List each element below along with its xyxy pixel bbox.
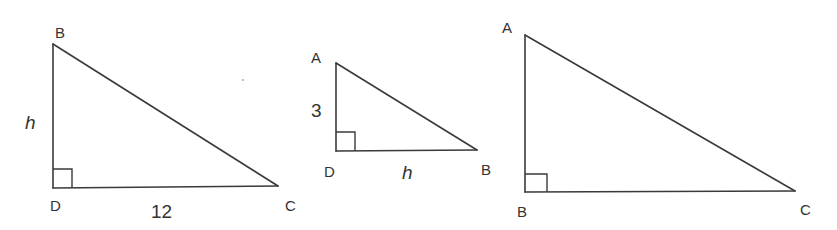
side-label-h: h	[402, 162, 413, 183]
vertex-label-d: D	[324, 163, 335, 180]
side-ab-hypotenuse	[336, 63, 477, 150]
triangle-2: A D B 3 h	[311, 49, 491, 183]
right-angle-marker-b	[525, 174, 547, 192]
side-dc	[53, 186, 278, 188]
side-bc-hypotenuse	[53, 44, 278, 186]
vertex-label-b: B	[481, 161, 491, 178]
side-label-h: h	[25, 112, 36, 133]
vertex-label-a: A	[502, 19, 512, 36]
side-ac-hypotenuse	[525, 35, 795, 191]
diagram-canvas: B D C h 12 A D B 3 h A B C	[0, 0, 837, 230]
right-angle-marker-d	[53, 169, 72, 188]
vertex-label-c: C	[800, 201, 811, 218]
triangle-1: B D C h 12	[25, 24, 296, 222]
side-bc	[525, 191, 795, 192]
vertex-label-d: D	[50, 197, 61, 214]
vertex-label-b: B	[517, 203, 527, 220]
side-label-3: 3	[311, 100, 322, 121]
vertex-label-a: A	[311, 49, 321, 66]
vertex-label-b: B	[55, 24, 65, 41]
speck-artifact	[242, 79, 244, 81]
triangle-3: A B C	[502, 19, 811, 220]
side-label-12: 12	[151, 201, 172, 222]
vertex-label-c: C	[285, 197, 296, 214]
right-angle-marker-d	[336, 132, 355, 151]
side-db	[336, 150, 477, 151]
